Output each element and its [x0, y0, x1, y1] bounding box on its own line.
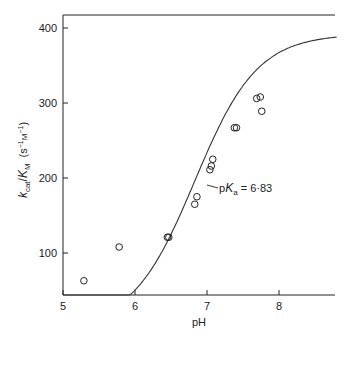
x-tick-label: 5: [60, 300, 66, 312]
x-tick-label: 6: [132, 300, 138, 312]
x-tick-label: 8: [276, 300, 282, 312]
svg-text:kcat/KM(s−1M−1): kcat/KM(s−1M−1): [16, 122, 32, 198]
x-tick-label: 7: [204, 300, 210, 312]
y-tick-label: 400: [39, 22, 57, 34]
y-axis-label: kcat/KM(s−1M−1): [16, 122, 32, 198]
data-point: [194, 193, 201, 200]
x-axis-label: pH: [192, 316, 206, 328]
pka-annotation: pKa = 6·83: [207, 181, 272, 197]
data-point: [191, 201, 198, 208]
fit-curve: [63, 37, 337, 295]
data-point: [207, 166, 214, 173]
plot-frame: [63, 15, 335, 295]
y-tick-label: 100: [39, 247, 57, 259]
y-axis-ticks: 100200300400: [39, 22, 68, 259]
y-tick-label: 300: [39, 97, 57, 109]
x-axis-ticks: 5678: [60, 290, 282, 312]
chart: 5678 100200300400 pKa = 6·83 pH kcat/KM(…: [0, 0, 352, 366]
data-point: [208, 163, 215, 170]
data-point: [81, 277, 88, 284]
data-point: [258, 108, 265, 115]
annotation-leader-line: [207, 185, 218, 188]
annotation-label: pKa = 6·83: [219, 181, 272, 197]
data-point: [116, 244, 123, 251]
data-point: [209, 156, 216, 163]
y-tick-label: 200: [39, 172, 57, 184]
